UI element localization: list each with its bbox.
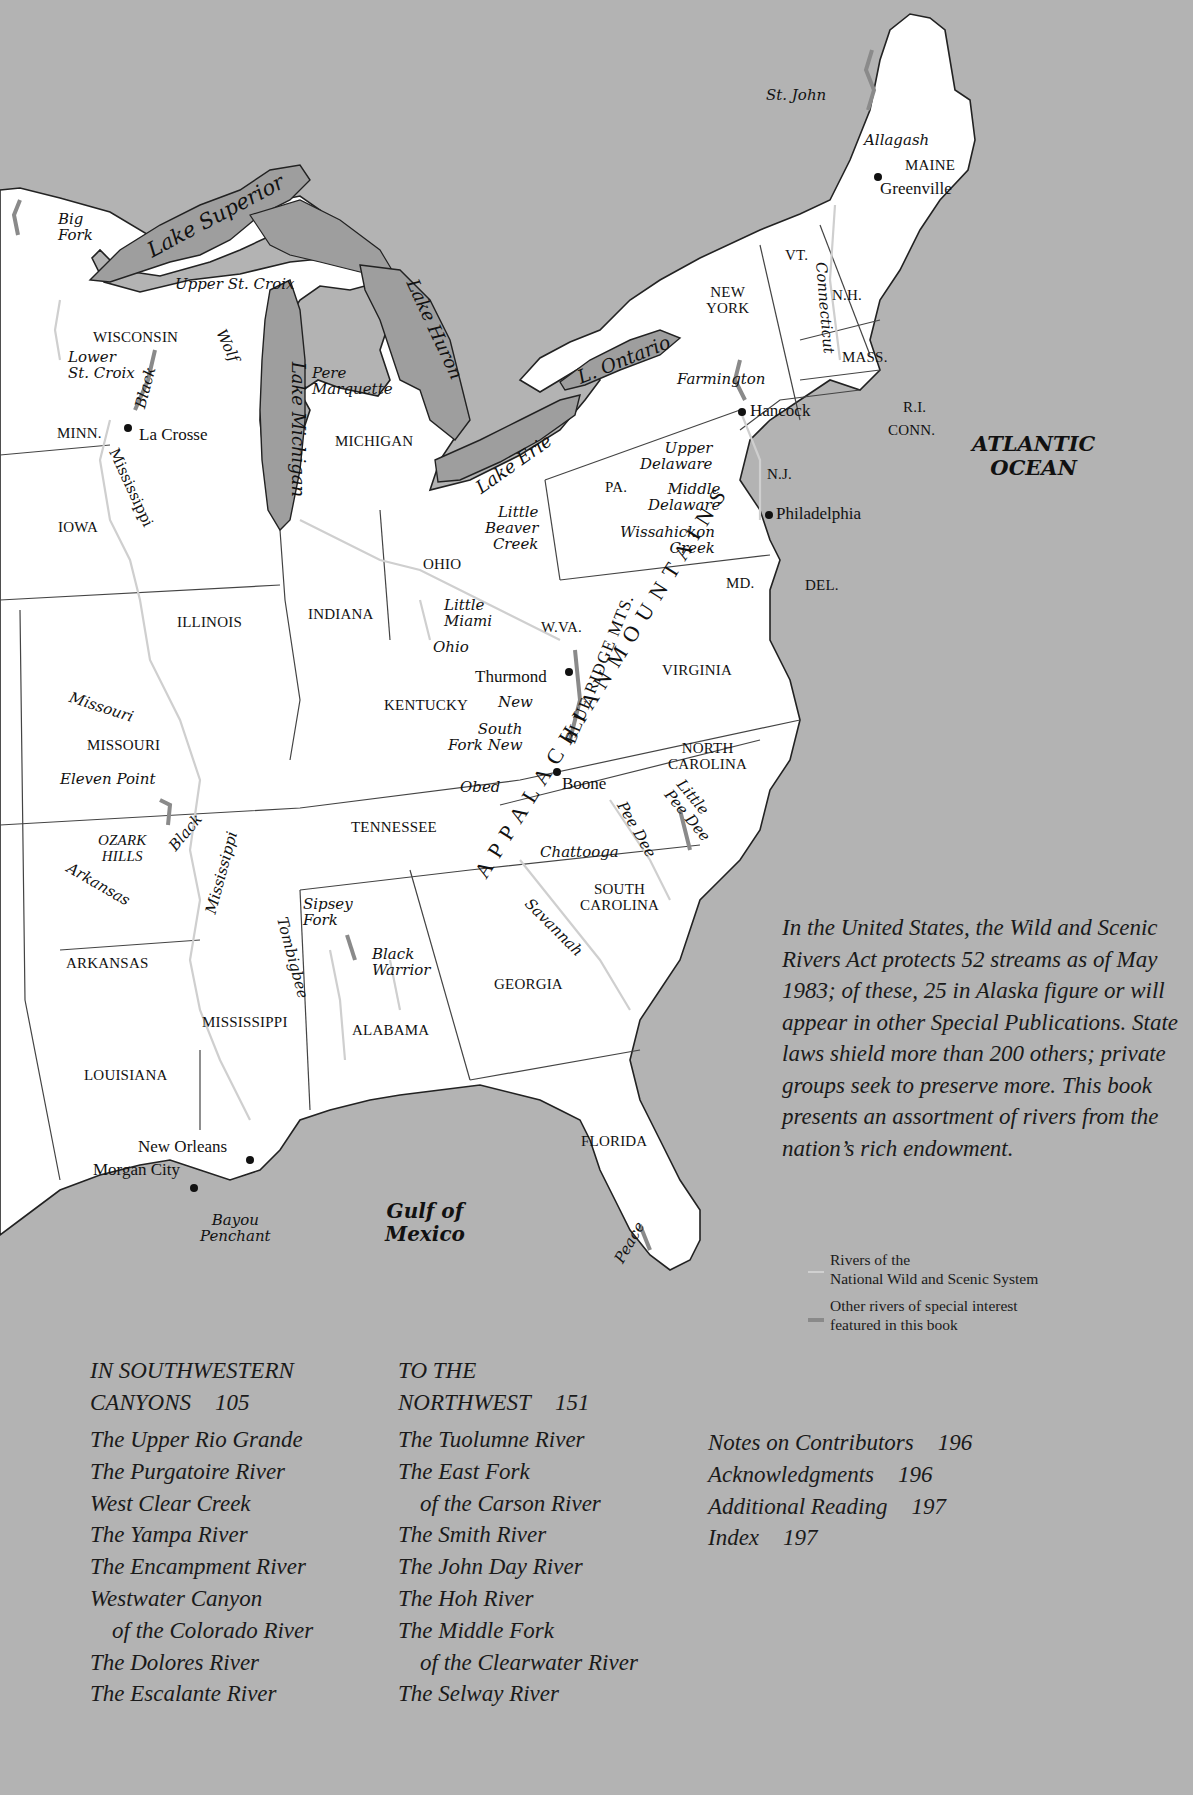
toc-item[interactable]: The Selway River: [398, 1678, 638, 1710]
toc-item[interactable]: The Encampment River: [90, 1551, 313, 1583]
little-beaver-line3: Creek: [485, 537, 538, 553]
state-louisiana: LOUISIANA: [84, 1068, 167, 1084]
toc-back-page: 197: [783, 1525, 818, 1550]
state-sc-line1: SOUTH: [580, 882, 659, 898]
river-black-warrior: Black Warrior: [372, 947, 430, 979]
state-illinois: ILLINOIS: [177, 615, 242, 631]
city-dot-philadelphia: [765, 511, 773, 519]
city-dot-thurmond: [565, 668, 573, 676]
state-ri: R.I.: [903, 400, 926, 416]
legend-other-rivers: Other rivers of special interest feature…: [780, 1296, 1180, 1334]
state-vt: VT.: [785, 248, 808, 264]
toc-item[interactable]: West Clear Creek: [90, 1488, 313, 1520]
river-farmington: Farmington: [677, 372, 766, 388]
river-obed: Obed: [460, 780, 500, 796]
little-miami-line2: Miami: [444, 614, 492, 630]
toc-item[interactable]: The Hoh River: [398, 1583, 638, 1615]
river-eleven-point: Eleven Point: [60, 772, 155, 788]
state-ohio: OHIO: [423, 557, 461, 573]
state-new-york-line2: YORK: [706, 301, 749, 317]
state-nh: N.H.: [832, 288, 862, 304]
toc-item-continuation[interactable]: of the Clearwater River: [398, 1647, 638, 1679]
legend-national-line1: Rivers of the: [830, 1250, 1180, 1269]
toc-back-item[interactable]: Index197: [708, 1522, 972, 1554]
toc-back-matter: Notes on Contributors196 Acknowledgments…: [708, 1427, 972, 1554]
sipsey-line2: Fork: [303, 913, 353, 929]
upper-delaware-line2: Delaware: [640, 457, 712, 473]
state-iowa: IOWA: [58, 520, 98, 536]
gulf-line-1: Gulf of: [385, 1200, 465, 1223]
label-ozark-hills: OZARK HILLS: [98, 833, 147, 865]
city-dot-new-orleans: [246, 1156, 254, 1164]
state-nc-line1: NORTH: [668, 741, 747, 757]
toc-southwest-page: 105: [215, 1390, 250, 1415]
toc-back-page: 196: [898, 1462, 933, 1487]
toc-back-item[interactable]: Additional Reading197: [708, 1491, 972, 1523]
map-legend: Rivers of the National Wild and Scenic S…: [780, 1250, 1180, 1342]
toc-item-continuation[interactable]: of the Colorado River: [90, 1615, 313, 1647]
legend-national-line2: National Wild and Scenic System: [830, 1269, 1180, 1288]
label-gulf-of-mexico: Gulf of Mexico: [385, 1200, 465, 1246]
toc-back-item[interactable]: Acknowledgments196: [708, 1459, 972, 1491]
state-georgia: GEORGIA: [494, 977, 563, 993]
state-wva: W.VA.: [541, 620, 582, 636]
state-south-carolina: SOUTH CAROLINA: [580, 882, 659, 914]
state-kentucky: KENTUCKY: [384, 698, 468, 714]
state-tennessee: TENNESSEE: [351, 820, 437, 836]
legend-other-line2: featured in this book: [830, 1315, 1180, 1334]
toc-southwest-heading: CANYONS: [90, 1390, 191, 1415]
river-lower-st-croix: Lower St. Croix: [68, 350, 135, 382]
state-mass: MASS.: [842, 350, 888, 366]
toc-item[interactable]: The Smith River: [398, 1519, 638, 1551]
lower-st-croix-line2: St. Croix: [68, 366, 135, 382]
river-little-miami: Little Miami: [444, 598, 492, 630]
toc-southwest-heading-line2: CANYONS105: [90, 1387, 313, 1419]
toc-item[interactable]: The John Day River: [398, 1551, 638, 1583]
atlantic-line-1: ATLANTIC: [972, 432, 1095, 456]
pere-marquette-line2: Marquette: [312, 382, 393, 398]
toc-item[interactable]: The Dolores River: [90, 1647, 313, 1679]
legend-national-rivers: Rivers of the National Wild and Scenic S…: [780, 1250, 1180, 1288]
city-hancock: Hancock: [750, 402, 810, 420]
toc-item[interactable]: The East Fork: [398, 1456, 638, 1488]
toc-item[interactable]: The Tuolumne River: [398, 1424, 638, 1456]
city-boone: Boone: [562, 775, 606, 793]
state-maine: MAINE: [905, 158, 955, 174]
river-sipsey-fork: Sipsey Fork: [303, 897, 353, 929]
state-pa: PA.: [605, 480, 627, 496]
toc-item-continuation[interactable]: of the Carson River: [398, 1488, 638, 1520]
state-nj: N.J.: [767, 467, 792, 483]
state-new-york-line1: NEW: [706, 285, 749, 301]
toc-back-page: 197: [912, 1494, 947, 1519]
state-virginia: VIRGINIA: [662, 663, 732, 679]
river-st-john: St. John: [766, 88, 826, 104]
toc-item[interactable]: Westwater Canyon: [90, 1583, 313, 1615]
river-bayou-penchant: Bayou Penchant: [200, 1213, 271, 1245]
toc-back-label: Additional Reading: [708, 1494, 888, 1519]
toc-back-label: Index: [708, 1525, 759, 1550]
national-river-swatch-icon: [808, 1271, 824, 1273]
toc-southwest-section: IN SOUTHWESTERN CANYONS105 The Upper Rio…: [90, 1355, 313, 1710]
state-missouri: MISSOURI: [87, 738, 160, 754]
state-new-york: NEW YORK: [706, 285, 749, 317]
label-atlantic-ocean: ATLANTIC OCEAN: [972, 432, 1095, 480]
river-upper-st-croix: Upper St. Croix: [175, 277, 294, 293]
state-indiana: INDIANA: [308, 607, 374, 623]
toc-back-item[interactable]: Notes on Contributors196: [708, 1427, 972, 1459]
toc-item[interactable]: The Middle Fork: [398, 1615, 638, 1647]
special-river-swatch-icon: [808, 1318, 824, 1322]
toc-northwest-heading: NORTHWEST: [398, 1390, 531, 1415]
toc-item[interactable]: The Escalante River: [90, 1678, 313, 1710]
toc-back-label: Notes on Contributors: [708, 1430, 914, 1455]
toc-northwest-heading-line2: NORTHWEST151: [398, 1387, 638, 1419]
state-michigan: MICHIGAN: [335, 434, 413, 450]
toc-item[interactable]: The Upper Rio Grande: [90, 1424, 313, 1456]
state-north-carolina: NORTH CAROLINA: [668, 741, 747, 773]
south-fork-new-line2: Fork New: [448, 738, 523, 754]
toc-item[interactable]: The Purgatoire River: [90, 1456, 313, 1488]
label-lake-michigan: Lake Michigan: [288, 362, 307, 497]
atlantic-line-2: OCEAN: [972, 456, 1095, 480]
river-big-fork: Big Fork: [58, 212, 93, 244]
river-south-fork-new: South Fork New: [448, 722, 523, 754]
toc-item[interactable]: The Yampa River: [90, 1519, 313, 1551]
